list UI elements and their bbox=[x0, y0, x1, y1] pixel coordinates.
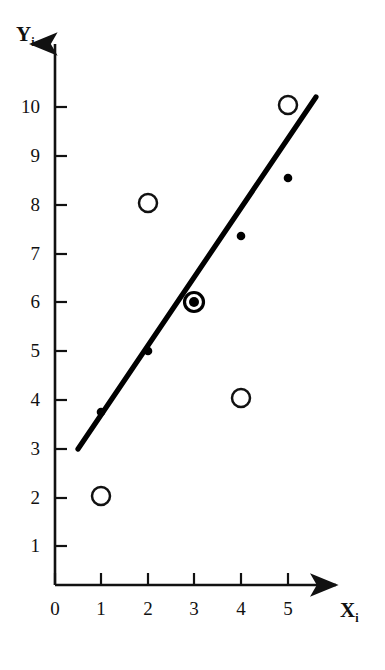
y-tick-label-2: 2 bbox=[6, 488, 40, 507]
y-tick-label-6: 6 bbox=[6, 292, 40, 311]
observed-point-x2 bbox=[139, 194, 157, 212]
y-tick-label-1: 1 bbox=[6, 536, 40, 555]
plot-canvas bbox=[0, 0, 385, 670]
x-axis-title: Xi bbox=[340, 600, 359, 624]
y-axis-title-text: Y bbox=[16, 22, 31, 46]
y-tick-label-10: 10 bbox=[6, 97, 40, 116]
y-tick-label-9: 9 bbox=[6, 146, 40, 165]
y-tick-label-7: 7 bbox=[6, 244, 40, 263]
centroid-marker bbox=[185, 293, 204, 312]
x-tick-label-5: 5 bbox=[277, 599, 299, 618]
fitted-point-x1 bbox=[97, 408, 106, 417]
y-tick-label-8: 8 bbox=[6, 195, 40, 214]
x-axis-title-text: X bbox=[340, 598, 355, 622]
x-tick-label-4: 4 bbox=[230, 599, 252, 618]
y-tick-label-3: 3 bbox=[6, 439, 40, 458]
observed-point-x4 bbox=[232, 389, 250, 407]
x-tick-label-2: 2 bbox=[137, 599, 159, 618]
x-tick-label-1: 1 bbox=[90, 599, 112, 618]
y-axis-title: Yi bbox=[16, 24, 35, 48]
x-axis-ticks bbox=[55, 573, 288, 585]
observed-point-x1 bbox=[92, 487, 110, 505]
observed-point-x5 bbox=[279, 96, 297, 114]
fitted-point-x4 bbox=[237, 232, 246, 241]
regression-scatter-figure: Yi Xi 10 9 8 7 6 5 4 3 2 1 0 1 2 3 4 5 bbox=[0, 0, 385, 670]
x-tick-label-0: 0 bbox=[44, 599, 66, 618]
regression-line bbox=[78, 97, 316, 449]
fitted-point-x2 bbox=[144, 347, 153, 356]
y-tick-label-4: 4 bbox=[6, 390, 40, 409]
y-axis-ticks bbox=[55, 107, 67, 546]
fitted-point-x5 bbox=[284, 174, 293, 183]
x-tick-label-3: 3 bbox=[183, 599, 205, 618]
centroid-dot bbox=[189, 297, 199, 307]
y-tick-label-5: 5 bbox=[6, 341, 40, 360]
x-axis-title-subscript: i bbox=[355, 611, 358, 625]
y-axis-title-subscript: i bbox=[31, 35, 34, 49]
